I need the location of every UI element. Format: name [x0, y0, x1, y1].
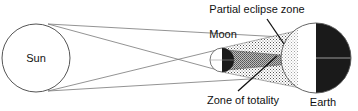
- earth-label: Earth: [310, 96, 336, 108]
- outer-ray-top: [48, 24, 300, 38]
- moon-label: Moon: [209, 28, 237, 40]
- partial-zone-label: Partial eclipse zone: [209, 3, 304, 15]
- totality-zone-label: Zone of totality: [207, 94, 280, 106]
- sun: Sun: [2, 24, 70, 92]
- inner-ray-bottom: [48, 48, 225, 91]
- sun-label: Sun: [26, 52, 46, 64]
- inner-ray-top: [48, 24, 225, 72]
- earth: Earth: [280, 23, 352, 108]
- solar-eclipse-diagram: Sun Moon Earth Partial eclipse zone Zone…: [0, 0, 358, 111]
